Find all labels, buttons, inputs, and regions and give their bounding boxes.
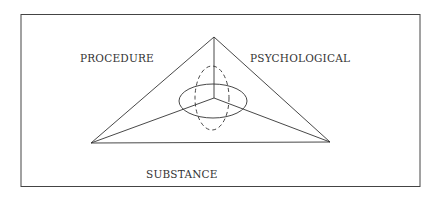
spoke-right [214,98,330,142]
dashed-ellipse [195,66,229,130]
label-procedure: PROCEDURE [80,52,154,64]
triangle-diagram [0,0,438,199]
solid-ellipse [179,84,247,118]
label-psychological: PSYCHOLOGICAL [250,52,350,64]
label-substance: SUBSTANCE [146,168,218,180]
